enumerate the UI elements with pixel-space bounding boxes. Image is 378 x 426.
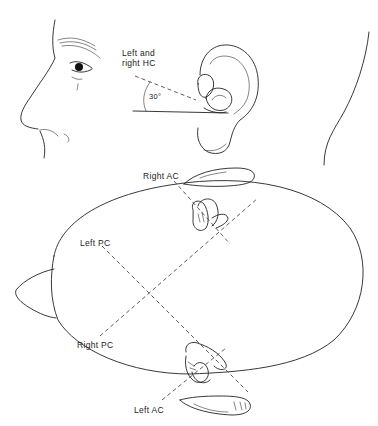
angle-label: 30° [149, 92, 161, 102]
left-pc-plane-line [102, 246, 248, 392]
left-labyrinth-icon [185, 342, 226, 382]
eye-pupil-icon [75, 63, 83, 71]
face-profile-icon [21, 20, 100, 158]
right-pc-label: Right PC [77, 340, 113, 350]
back-of-head-line [324, 32, 369, 165]
left-pc-label: Left PC [80, 238, 110, 248]
right-ear-top-view-icon [184, 168, 254, 186]
left-ac-label: Left AC [134, 405, 164, 415]
right-ac-left-pc-axis-upper [174, 181, 230, 244]
ear-icon [197, 45, 258, 154]
nose-top-view-icon [16, 269, 56, 318]
right-pc-plane-line [100, 198, 258, 336]
right-labyrinth-icon [192, 199, 228, 231]
left-ear-top-view-icon [180, 396, 250, 415]
hc-label-line2: right HC [122, 58, 156, 68]
right-ac-label: Right AC [143, 171, 179, 181]
hc-label-line1: Left and [122, 48, 155, 58]
diagram-drawing [0, 0, 378, 426]
semicircular-canals-diagram: Left and right HC 30° Right AC Left PC R… [0, 0, 378, 426]
